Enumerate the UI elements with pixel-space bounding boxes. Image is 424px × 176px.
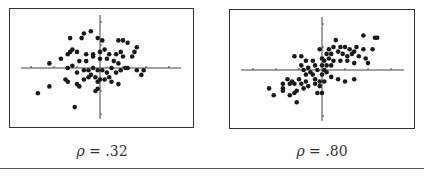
data-point xyxy=(352,77,357,82)
data-point xyxy=(292,82,297,87)
data-point xyxy=(304,79,309,84)
data-point xyxy=(361,47,366,52)
data-point xyxy=(345,54,350,59)
data-point xyxy=(288,93,293,98)
data-point xyxy=(311,59,316,64)
data-point xyxy=(304,59,309,64)
data-point xyxy=(352,61,357,66)
data-point xyxy=(343,79,348,84)
data-point xyxy=(327,47,332,52)
data-point xyxy=(288,82,293,87)
equals-sign: = xyxy=(309,143,321,159)
data-point xyxy=(304,72,309,77)
data-point xyxy=(285,77,290,82)
rho-symbol: ρ xyxy=(296,143,304,159)
data-point xyxy=(375,36,380,41)
data-point xyxy=(329,63,334,68)
data-point xyxy=(370,47,375,52)
data-point xyxy=(301,86,306,91)
data-point xyxy=(311,72,316,77)
data-point xyxy=(354,45,359,50)
data-point xyxy=(322,59,327,64)
data-point xyxy=(334,38,339,43)
data-point xyxy=(322,79,327,84)
data-point xyxy=(357,54,362,59)
data-point xyxy=(320,91,325,96)
data-point xyxy=(338,59,343,64)
bottom-divider xyxy=(0,168,424,169)
data-point xyxy=(294,100,299,105)
data-point xyxy=(329,75,334,80)
data-point xyxy=(336,49,341,54)
data-point xyxy=(315,91,320,96)
data-point xyxy=(324,52,329,57)
caption-rho-80: ρ = .80 xyxy=(262,143,382,159)
data-point xyxy=(320,72,325,77)
data-point xyxy=(281,82,286,87)
data-point xyxy=(317,79,322,84)
data-point xyxy=(340,52,345,57)
data-point xyxy=(343,45,348,50)
data-point xyxy=(313,77,318,82)
data-point xyxy=(292,91,297,96)
data-point xyxy=(297,77,302,82)
data-point xyxy=(345,59,350,64)
data-point xyxy=(299,82,304,87)
data-point xyxy=(299,63,304,68)
data-point xyxy=(317,84,322,89)
data-point xyxy=(329,52,334,57)
data-point xyxy=(327,56,332,61)
data-point xyxy=(324,70,329,75)
data-point xyxy=(338,45,343,50)
correlation-value: .80 xyxy=(325,143,347,159)
data-point xyxy=(363,56,368,61)
data-point xyxy=(267,86,272,91)
data-point xyxy=(347,47,352,52)
data-point xyxy=(361,33,366,38)
data-point xyxy=(301,68,306,73)
data-point xyxy=(320,63,325,68)
data-point xyxy=(292,54,297,59)
data-point xyxy=(366,61,371,66)
data-point xyxy=(317,47,322,52)
data-point xyxy=(331,59,336,64)
data-point xyxy=(315,68,320,73)
data-point xyxy=(336,77,341,82)
data-point xyxy=(331,45,336,50)
data-point xyxy=(350,52,355,57)
data-point xyxy=(324,63,329,68)
data-point xyxy=(271,93,276,98)
data-point xyxy=(313,82,318,87)
data-point xyxy=(281,88,286,93)
data-point xyxy=(306,84,311,89)
data-point xyxy=(299,54,304,59)
data-point xyxy=(306,65,311,70)
data-point xyxy=(313,63,318,68)
